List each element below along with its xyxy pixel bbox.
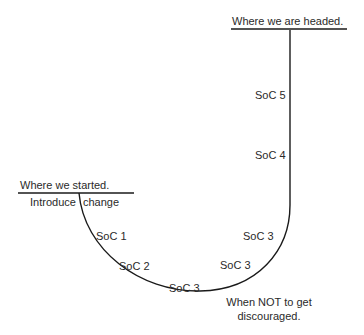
soc3-mid-label: SoC 3 (220, 259, 251, 271)
discouraged-line2: discouraged. (208, 310, 330, 322)
soc3-bottom-label: SoC 3 (169, 282, 200, 294)
soc3-upper-label: SoC 3 (243, 230, 274, 242)
introduce-label: Introduce (30, 196, 76, 208)
soc4-label: SoC 4 (255, 149, 286, 161)
soc1-label: SoC 1 (96, 230, 127, 242)
discouraged-line1: When NOT to get (208, 296, 330, 308)
change-label: change (83, 196, 119, 208)
soc5-label: SoC 5 (255, 89, 286, 101)
soc2-label: SoC 2 (119, 260, 150, 272)
started-label: Where we started. (20, 179, 109, 191)
headed-label: Where we are headed. (232, 15, 343, 27)
